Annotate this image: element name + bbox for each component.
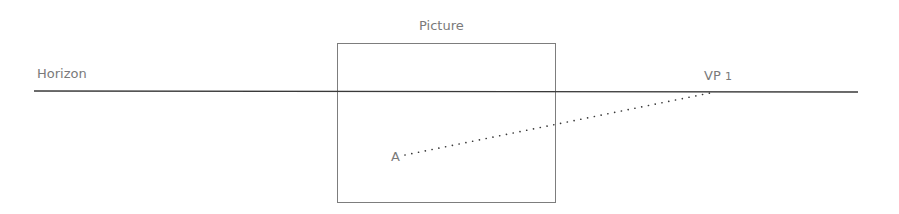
vp-text: VP — [704, 68, 721, 83]
vanishing-point-label: VP 1 — [704, 69, 732, 82]
picture-plane-frame — [338, 44, 556, 203]
horizon-label: Horizon — [37, 67, 87, 80]
picture-label: Picture — [419, 19, 464, 32]
sight-line-a-to-vp1 — [405, 92, 715, 155]
vp-index: 1 — [725, 70, 732, 83]
horizon-line — [34, 91, 858, 92]
point-a-label: A — [391, 150, 400, 163]
